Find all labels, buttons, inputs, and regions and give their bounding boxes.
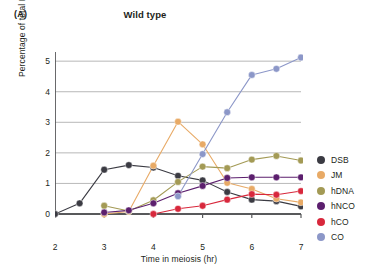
y-tick-label: 2 — [45, 148, 50, 158]
data-point-hnco — [150, 200, 157, 207]
legend-item-hdna[interactable]: hDNA — [317, 183, 355, 199]
chart-title: Wild type — [0, 9, 290, 20]
data-point-co — [224, 109, 231, 116]
figure-panel: (A) Wild type Percentage of total DNA Ti… — [0, 0, 385, 280]
chart-legend: DSBJMhDNAhNCOhCOCO — [317, 152, 355, 245]
x-tick-label: 3 — [102, 242, 107, 252]
data-point-co — [248, 72, 255, 79]
data-point-hco — [224, 196, 231, 203]
data-point-hnco — [273, 174, 280, 181]
data-point-hnco — [224, 175, 231, 182]
plot-area: Percentage of total DNA Time in meiosis … — [55, 40, 303, 238]
legend-item-dsb[interactable]: DSB — [317, 152, 355, 168]
legend-swatch-icon — [317, 171, 325, 179]
legend-swatch-icon — [317, 202, 325, 210]
data-point-co — [175, 193, 182, 200]
data-point-hco — [199, 202, 206, 209]
data-point-hdna — [298, 157, 303, 164]
data-point-hdna — [248, 156, 255, 163]
legend-swatch-icon — [317, 218, 325, 226]
data-point-hdna — [101, 202, 108, 209]
line-chart-svg — [55, 40, 303, 238]
data-point-hnco — [248, 174, 255, 181]
data-point-hdna — [224, 165, 231, 172]
data-point-jm — [298, 199, 303, 206]
legend-swatch-icon — [317, 156, 325, 164]
legend-swatch-icon — [317, 233, 325, 241]
legend-item-label: DSB — [331, 155, 349, 165]
data-point-dsb — [55, 211, 58, 218]
data-point-hco — [298, 188, 303, 195]
legend-item-label: JM — [331, 170, 343, 180]
data-point-hdna — [199, 163, 206, 170]
x-tick-label: 5 — [200, 242, 205, 252]
x-tick-label: 2 — [53, 242, 58, 252]
y-tick-label: 3 — [45, 117, 50, 127]
y-tick-label: 4 — [45, 87, 50, 97]
legend-item-label: hNCO — [331, 201, 355, 211]
data-point-co — [199, 151, 206, 158]
data-point-dsb — [101, 166, 108, 173]
x-tick-label: 4 — [151, 242, 156, 252]
data-point-dsb — [125, 162, 132, 169]
data-point-co — [273, 65, 280, 72]
x-tick-label: 6 — [249, 242, 254, 252]
data-point-jm — [175, 118, 182, 125]
data-point-dsb — [175, 172, 182, 179]
series-line-co — [178, 58, 301, 197]
data-point-dsb — [224, 189, 231, 196]
legend-item-co[interactable]: CO — [317, 230, 355, 246]
data-point-hnco — [298, 174, 303, 181]
y-axis-label: Percentage of total DNA — [17, 0, 27, 100]
y-tick-label: 5 — [45, 56, 50, 66]
legend-item-hnco[interactable]: hNCO — [317, 199, 355, 215]
x-tick-label: 7 — [299, 242, 304, 252]
legend-item-hco[interactable]: hCO — [317, 214, 355, 230]
data-point-hco — [175, 205, 182, 212]
data-point-jm — [150, 162, 157, 169]
data-point-hco — [273, 191, 280, 198]
data-point-hco — [150, 211, 157, 218]
data-point-hnco — [101, 209, 108, 216]
legend-swatch-icon — [317, 187, 325, 195]
data-point-jm — [199, 141, 206, 148]
data-point-hdna — [175, 179, 182, 186]
legend-item-label: hCO — [331, 217, 349, 227]
data-point-hdna — [273, 153, 280, 160]
data-point-dsb — [76, 200, 83, 207]
data-point-hnco — [199, 182, 206, 189]
legend-item-label: hDNA — [331, 186, 354, 196]
x-axis-label: Time in meiosis (hr) — [55, 254, 303, 264]
data-point-co — [298, 54, 303, 61]
legend-item-label: CO — [331, 232, 344, 242]
data-point-hnco — [125, 207, 132, 214]
y-tick-label: 0 — [45, 209, 50, 219]
y-tick-label: 1 — [45, 178, 50, 188]
legend-item-jm[interactable]: JM — [317, 168, 355, 184]
data-point-hco — [248, 191, 255, 198]
